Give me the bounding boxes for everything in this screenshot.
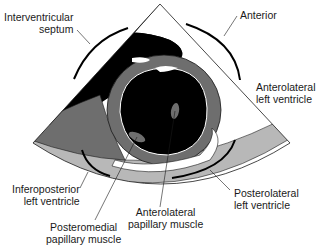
label-anterolateral-papillary-muscle: Anterolateral papillary muscle: [128, 206, 203, 230]
label-text: Inferoposterior: [12, 183, 80, 195]
label-text: Anterolateral: [256, 81, 316, 93]
label-text: Posteromedial: [46, 221, 121, 233]
leader-septum: [77, 30, 90, 44]
label-text: left ventricle: [256, 93, 316, 105]
label-anterolateral-lv: Anterolateral left ventricle: [256, 81, 316, 105]
label-posterolateral-lv: Posterolateral left ventricle: [234, 187, 299, 211]
label-text: papillary muscle: [128, 218, 203, 230]
lv-cavity: [120, 68, 207, 155]
label-text: Interventricular: [4, 11, 73, 23]
label-interventricular-septum: Interventricular septum: [4, 11, 73, 35]
label-anterior: Anterior: [240, 9, 277, 21]
label-text: septum: [4, 23, 73, 35]
leader-inferoposterior: [80, 172, 88, 188]
label-posteromedial-papillary-muscle: Posteromedial papillary muscle: [46, 221, 121, 245]
leader-anterior: [224, 16, 237, 36]
label-inferoposterior-lv: Inferoposterior left ventricle: [12, 183, 80, 207]
label-text: left ventricle: [12, 195, 80, 207]
label-text: Posterolateral: [234, 187, 299, 199]
label-text: Anterior: [240, 9, 277, 21]
label-text: left ventricle: [234, 199, 299, 211]
label-text: Anterolateral: [128, 206, 203, 218]
label-text: papillary muscle: [46, 233, 121, 245]
